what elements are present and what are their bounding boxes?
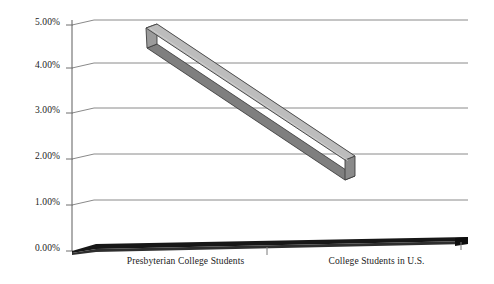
chart-container: 5.00% 4.00% 3.00% 2.00% 1.00% 0.00% Pres… (0, 0, 494, 284)
ribbon-highlight (150, 29, 348, 161)
gridline-4pct (72, 63, 468, 68)
y-tick-label-3pct: 3.00% (8, 105, 60, 115)
y-tick-label-0pct: 0.00% (8, 243, 60, 253)
x-category-label-presbyterian: Presbyterian College Students (103, 256, 268, 266)
x-category-label-us: College Students in U.S. (294, 256, 459, 266)
ribbon-top-face (146, 24, 355, 160)
data-ribbon (146, 24, 355, 180)
y-axis (66, 20, 73, 251)
gridline-group (72, 20, 468, 205)
y-tick-label-1pct: 1.00% (8, 197, 60, 207)
gridline-2pct (72, 154, 468, 159)
chart-canvas (0, 0, 494, 284)
gridline-5pct (72, 20, 468, 25)
y-tick-label-5pct: 5.00% (8, 17, 60, 27)
y-tick-label-2pct: 2.00% (8, 151, 60, 161)
y-tick-label-4pct: 4.00% (8, 60, 60, 70)
floor-base (72, 237, 468, 255)
gridline-1pct (72, 200, 468, 205)
ribbon-bottom-face (147, 44, 355, 180)
